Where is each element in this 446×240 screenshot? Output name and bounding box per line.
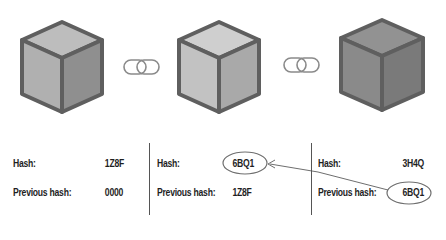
block-2-cube-icon <box>179 22 259 112</box>
hash-value: 6BQ1 <box>232 157 254 169</box>
hash-label: Hash: <box>318 157 341 169</box>
block-2-info: Hash: 6BQ1 Previous hash: 1Z8F <box>157 143 307 213</box>
previous-hash-label: Previous hash: <box>13 186 71 198</box>
previous-hash-value: 0000 <box>105 186 123 198</box>
hash-label: Hash: <box>13 157 36 169</box>
hash-label: Hash: <box>157 157 180 169</box>
divider <box>149 143 150 215</box>
block-1-info: Hash: 1Z8F Previous hash: 0000 <box>13 143 143 213</box>
block-3-info: Hash: 3H4Q Previous hash: 6BQ1 <box>318 143 446 213</box>
block-1-cube-icon <box>22 22 102 112</box>
previous-hash-label: Previous hash: <box>318 186 376 198</box>
block-3-cube-icon <box>341 20 423 110</box>
previous-hash-label: Previous hash: <box>157 186 215 198</box>
previous-hash-value: 1Z8F <box>232 186 251 198</box>
chain-link-icon <box>124 60 159 74</box>
previous-hash-value: 6BQ1 <box>402 186 424 198</box>
chain-link-icon <box>284 58 319 72</box>
hash-value: 3H4Q <box>402 157 424 169</box>
divider <box>311 143 312 215</box>
hash-value: 1Z8F <box>105 157 124 169</box>
